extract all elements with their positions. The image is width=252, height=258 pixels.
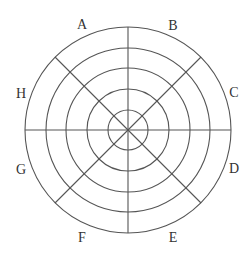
label-d: D [229,161,239,176]
label-a: A [77,17,88,32]
label-g: G [16,162,26,177]
label-b: B [168,18,177,33]
label-e: E [169,230,178,245]
label-c: C [229,85,238,100]
label-h: H [16,86,26,101]
label-f: F [78,230,86,245]
concentric-sector-diagram: A B C D E F G H [0,0,252,258]
spoke-lines [25,27,231,233]
